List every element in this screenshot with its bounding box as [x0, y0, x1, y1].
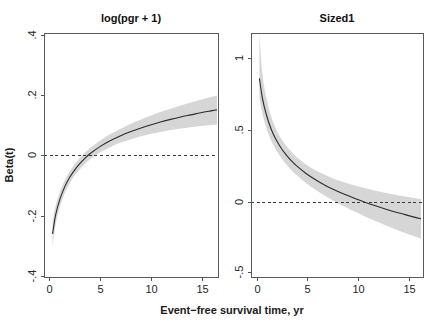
panel-right-frame: [252, 34, 424, 278]
panel-left-xtick-2: 10: [145, 283, 157, 295]
panel-right-ytick-3: -.5: [233, 266, 245, 279]
panel-left-ytick-4: -.4: [26, 270, 38, 283]
panel-right-ci-band: [259, 33, 421, 239]
panel-left-ytick-1: .2: [26, 90, 38, 99]
panel-right-x-axis: 0 5 10 15: [254, 277, 415, 295]
panel-left-y-axis: .4 .2 0 -.2 -.4: [26, 30, 44, 282]
x-axis-label: Event−free survival time, yr: [160, 304, 304, 316]
panel-left-ci-band: [53, 95, 217, 246]
panel-right-xtick-0: 0: [254, 283, 260, 295]
panel-left: log(pgr + 1) .4 .2 0 -.2 -.4: [26, 12, 219, 295]
panel-left-xtick-3: 15: [196, 283, 208, 295]
panel-left-ytick-0: .4: [26, 30, 38, 39]
panel-right-ytick-0: 1: [233, 55, 245, 61]
panel-right-ytick-1: .5: [233, 125, 245, 134]
panel-right: Sized1 1 .5 0 -.5: [233, 12, 423, 295]
panel-right-title: Sized1: [320, 12, 355, 24]
panel-right-xtick-1: 5: [304, 283, 310, 295]
panel-right-y-axis: 1 .5 0 -.5: [233, 55, 251, 278]
figure-container: log(pgr + 1) .4 .2 0 -.2 -.4: [0, 0, 443, 329]
panel-left-ytick-2: 0: [26, 152, 38, 158]
panel-left-x-axis: 0 5 10 15: [46, 277, 208, 295]
panel-left-title: log(pgr + 1): [101, 12, 162, 24]
panel-left-xtick-0: 0: [46, 283, 52, 295]
panel-left-xtick-1: 5: [97, 283, 103, 295]
statistical-plot: log(pgr + 1) .4 .2 0 -.2 -.4: [0, 0, 443, 329]
panel-right-xtick-3: 15: [403, 283, 415, 295]
panel-right-xtick-2: 10: [352, 283, 364, 295]
y-axis-label: Beta(t): [3, 147, 15, 182]
panel-left-ytick-3: -.2: [26, 210, 38, 223]
panel-right-ytick-2: 0: [233, 199, 245, 205]
